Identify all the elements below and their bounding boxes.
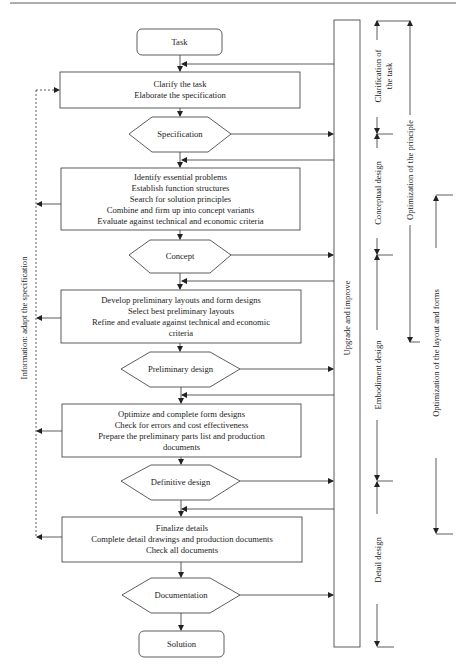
- conceptual-steps-label: Identify essential problems Establish fu…: [61, 168, 300, 230]
- task-label: Task: [137, 29, 222, 55]
- detail-steps-label: Finalize details Complete detail drawing…: [62, 517, 302, 562]
- upgrade-label: Upgrade and improve: [342, 278, 353, 359]
- solution-label: Solution: [139, 631, 224, 657]
- phase-embodiment-label: Embodiment design: [373, 338, 384, 413]
- concept-label: Concept: [129, 240, 231, 273]
- specification-label: Specification: [129, 117, 231, 152]
- optimization-principle-label: Optimization of the principle: [405, 117, 416, 223]
- clarify-label: Clarify the task Elaborate the specifica…: [60, 72, 300, 108]
- optimize-steps-label: Optimize and complete form designs Check…: [62, 404, 301, 457]
- documentation-label: Documentation: [122, 578, 240, 613]
- optimization-layout-label: Optimization of the layout and forms: [431, 286, 442, 420]
- information-label: Information: adapt the specification: [19, 254, 30, 383]
- phase-clarification-label: Clarification of the task: [373, 47, 395, 106]
- preliminary-design-label: Preliminary design: [121, 352, 240, 387]
- phase-conceptual-label: Conceptual design: [373, 158, 384, 228]
- definitive-design-label: Definitive design: [121, 465, 240, 500]
- phase-detail-label: Detail design: [373, 534, 384, 586]
- embodiment-steps-label: Develop preliminary layouts and form des…: [61, 290, 301, 343]
